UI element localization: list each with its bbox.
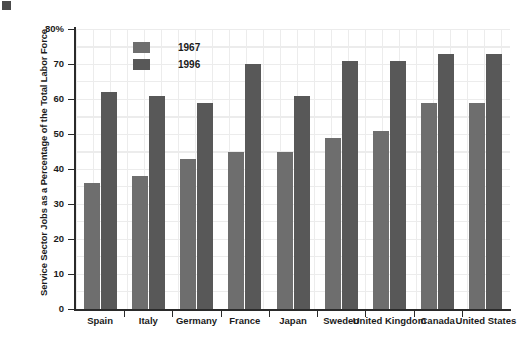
y-tick-label: 0 xyxy=(20,303,64,314)
legend: 1967 1996 xyxy=(133,40,200,74)
bar xyxy=(277,152,293,310)
y-tick xyxy=(68,64,76,65)
y-tick xyxy=(68,29,76,30)
legend-item: 1967 xyxy=(133,40,200,54)
y-tick-label-wrap: 20 xyxy=(14,233,64,245)
scan-artifact xyxy=(2,1,11,10)
y-tick-label-wrap: 10 xyxy=(14,268,64,280)
legend-swatch-1996 xyxy=(133,59,150,70)
y-tick-label-wrap: 60 xyxy=(14,93,64,105)
y-tick-label-wrap: 50 xyxy=(14,128,64,140)
y-tick-label-wrap: 40 xyxy=(14,163,64,175)
y-tick xyxy=(68,99,76,100)
bar xyxy=(132,176,148,309)
y-tick-label: 50 xyxy=(20,128,64,139)
bar xyxy=(180,159,196,310)
y-tick-label: 70 xyxy=(20,58,64,69)
y-tick xyxy=(68,204,76,205)
y-tick-label: 80% xyxy=(20,23,64,34)
y-tick-label-wrap: 80% xyxy=(14,23,64,35)
y-tick-label-wrap: 70 xyxy=(14,58,64,70)
bar xyxy=(197,103,213,310)
bar xyxy=(84,183,100,309)
y-tick-label: 30 xyxy=(20,198,64,209)
y-tick-label: 10 xyxy=(20,268,64,279)
y-tick xyxy=(68,134,76,135)
x-axis-label: United States xyxy=(446,315,519,327)
y-tick xyxy=(68,169,76,170)
legend-label-1967: 1967 xyxy=(178,42,200,53)
y-tick-label: 60 xyxy=(20,93,64,104)
bar xyxy=(421,103,437,310)
bar xyxy=(149,96,165,310)
y-tick xyxy=(68,239,76,240)
y-tick-label: 40 xyxy=(20,163,64,174)
bar-chart: Service Sector Jobs as a Percentage of t… xyxy=(0,0,519,354)
bar xyxy=(245,64,261,309)
bar xyxy=(325,138,341,310)
bar xyxy=(390,61,406,310)
bar xyxy=(373,131,389,310)
bar xyxy=(228,152,244,310)
legend-item: 1996 xyxy=(133,57,200,71)
y-tick xyxy=(68,274,76,275)
bar xyxy=(438,54,454,310)
bar xyxy=(469,103,485,310)
y-tick-label-wrap: 0 xyxy=(14,303,64,315)
bar xyxy=(101,92,117,309)
legend-label-1996: 1996 xyxy=(178,59,200,70)
y-tick xyxy=(68,309,76,310)
y-tick-label: 20 xyxy=(20,233,64,244)
legend-swatch-1967 xyxy=(133,42,150,53)
bar xyxy=(294,96,310,310)
bar xyxy=(486,54,502,310)
bar xyxy=(342,61,358,310)
y-tick-label-wrap: 30 xyxy=(14,198,64,210)
x-axis-line xyxy=(74,309,511,311)
